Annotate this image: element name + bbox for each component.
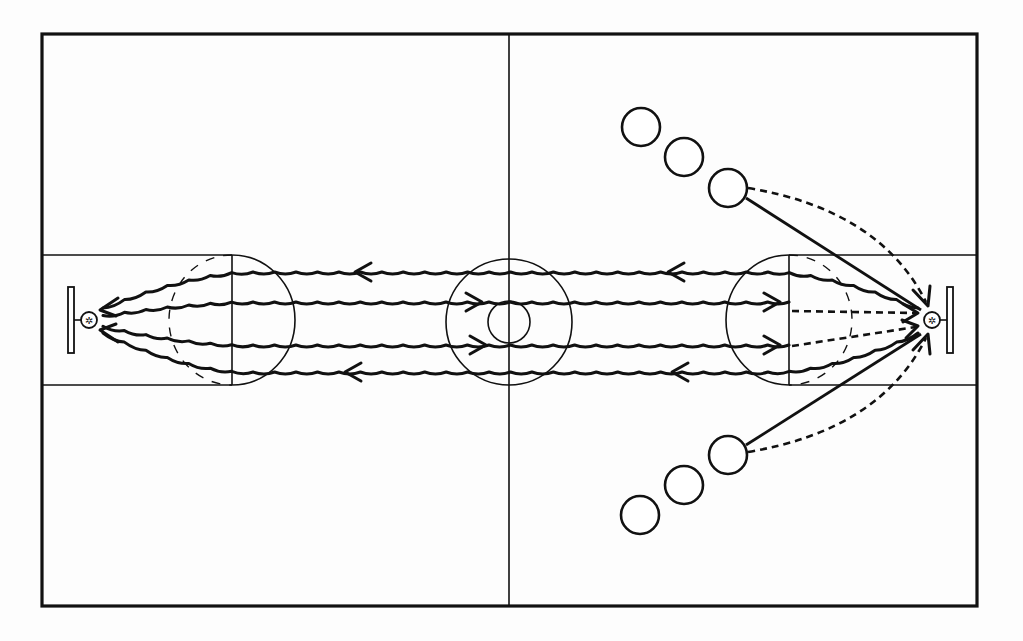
player-circle-icon [709,169,747,207]
player-circle-icon [665,138,703,176]
player-circle-icon [665,466,703,504]
player-circle-icon [622,108,660,146]
basketball-court-diagram: ✲ ✲ [0,0,1023,641]
background [0,0,1023,641]
svg-text:✲: ✲ [928,315,936,326]
right-backboard [947,287,953,353]
player-circle-icon [621,496,659,534]
svg-text:✲: ✲ [85,315,93,326]
left-backboard [68,287,74,353]
player-circle-icon [709,436,747,474]
